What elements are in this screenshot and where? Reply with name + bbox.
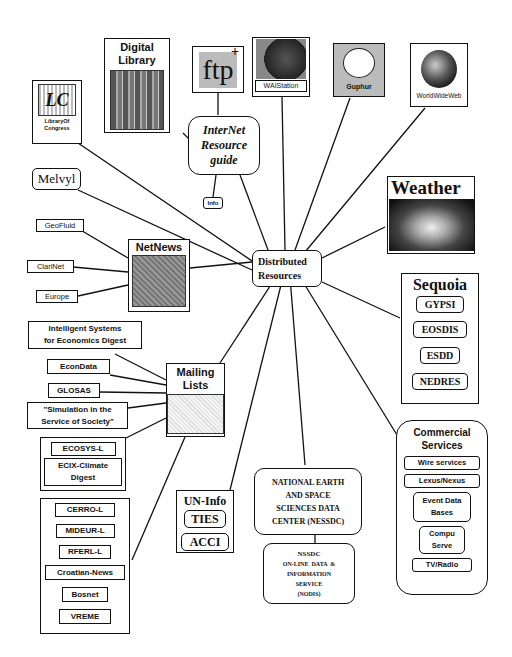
mailing-item-croatian-news[interactable]: Croatian-News (45, 565, 125, 580)
mailing-item-ecosys-l[interactable]: ECOSYS-L (51, 442, 116, 456)
guide-line-2: Resource (201, 138, 247, 153)
mailing-lists-title-2: Lists (177, 379, 215, 392)
gopher-node[interactable]: Guphur (333, 43, 385, 97)
netnews-child-clarinet[interactable]: ClariNet (27, 260, 74, 273)
mailing-item-rferl-l[interactable]: RFERL-L (59, 545, 111, 559)
ftp-icon: ftp + (199, 52, 237, 88)
hub-line-2: Resources (258, 269, 301, 283)
waistation-node[interactable]: WAIStation (252, 37, 310, 97)
netnews-child-europe[interactable]: Europe (36, 290, 78, 303)
netnews-node[interactable]: NetNews (128, 239, 190, 312)
guide-line-1: InterNet (203, 123, 245, 138)
weather-node[interactable]: Weather (387, 176, 475, 254)
mailing-item-vreme[interactable]: VREME (59, 609, 111, 624)
sequoia-item-eosdis[interactable]: EOSDIS (413, 321, 467, 338)
hurricane-satellite-icon (389, 199, 474, 251)
un-info-title: UN-Info (184, 493, 227, 509)
mailing-item-ecix-climate-digest[interactable]: ECIX-Climate Digest (44, 458, 122, 486)
library-of-congress-label-1: LibraryOf (44, 118, 69, 125)
mailing-item-bosnet[interactable]: Bosnet (62, 587, 108, 602)
mailing-group-balkan: CERRO-L MIDEUR-L RFERL-L Croatian-News B… (40, 498, 130, 634)
distributed-resources-hub[interactable]: Distributed Resources (252, 250, 322, 287)
globe-icon (421, 50, 457, 88)
books-icon (110, 70, 164, 130)
envelope-icon (167, 394, 224, 434)
guide-line-3: guide (210, 153, 237, 168)
library-of-congress-label-2: Congress (44, 125, 69, 132)
digital-library-title-1: Digital (118, 41, 155, 54)
netnews-title: NetNews (136, 240, 182, 255)
mailing-child-econdata[interactable]: EconData (47, 359, 110, 374)
melvyl-node[interactable]: Melvyl (32, 168, 81, 190)
gopher-label: Guphur (346, 83, 371, 90)
sequoia-node[interactable]: Sequoia GYPSI EOSDIS ESDD NEDRES (401, 273, 479, 404)
library-of-congress-logo-icon: LC (38, 84, 76, 116)
netnews-child-geofluid[interactable]: GeoFluid (36, 219, 84, 232)
internet-resource-guide-node[interactable]: InterNet Resource guide (188, 116, 260, 175)
mailing-lists-title-1: Mailing (177, 366, 215, 379)
un-info-node[interactable]: UN-Info TIES ACCI (176, 490, 234, 553)
nodis-node[interactable]: NSSDC ON-LINE DATA & INFORMATION SERVICE… (263, 543, 355, 604)
mailing-lists-node[interactable]: Mailing Lists (166, 363, 225, 437)
mailing-child-simulation-service-society[interactable]: "Simulation in the Service of Society" (27, 402, 128, 429)
commercial-title-1: Commercial (413, 426, 470, 439)
mailing-child-intelligent-systems[interactable]: Intelligent Systems for Economics Digest (28, 321, 142, 349)
worldwideweb-label: WorldWideWeb (417, 92, 462, 99)
un-info-item-ties[interactable]: TIES (184, 510, 226, 528)
digital-library-title-2: Library (118, 54, 155, 67)
mailing-group-ecosys: ECOSYS-L ECIX-Climate Digest (40, 437, 126, 491)
mailing-item-mideur-l[interactable]: MIDEUR-L (56, 524, 115, 538)
commercial-item-wire-services[interactable]: Wire services (404, 456, 480, 470)
mailing-item-cerro-l[interactable]: CERRO-L (55, 503, 115, 517)
sequoia-item-esdd[interactable]: ESDD (420, 347, 460, 364)
commercial-item-event-data-bases[interactable]: Event Data Bases (413, 492, 471, 522)
commercial-title-2: Services (413, 439, 470, 452)
weather-title: Weather (388, 177, 461, 199)
commercial-item-tv-radio[interactable]: TV/Radio (412, 558, 472, 572)
commercial-item-compuserve[interactable]: Compu Serve (419, 526, 465, 554)
hub-line-1: Distributed (258, 255, 307, 269)
commercial-services-node[interactable]: Commercial Services Wire services Lexus/… (396, 420, 488, 595)
un-info-item-acci[interactable]: ACCI (181, 533, 229, 551)
sequoia-item-nedres[interactable]: NEDRES (412, 373, 468, 390)
library-of-congress-node[interactable]: LC LibraryOf Congress (32, 80, 82, 144)
commercial-item-lexus-nexus[interactable]: Lexus/Nexus (404, 474, 480, 488)
globe-icon (256, 39, 306, 79)
mailing-child-glosas[interactable]: GLOSAS (48, 383, 100, 398)
digital-library-node[interactable]: Digital Library (104, 38, 170, 133)
nessdc-node[interactable]: NATIONAL EARTH AND SPACE SCIENCES DATA C… (254, 468, 362, 535)
newspaper-icon (132, 255, 186, 307)
worldwideweb-node[interactable]: WorldWideWeb (410, 43, 468, 107)
sequoia-item-gypsi[interactable]: GYPSI (416, 296, 464, 313)
waistation-label: WAIStation (255, 80, 307, 92)
ftp-node[interactable]: ftp + (192, 46, 244, 93)
info-button[interactable]: Info (203, 197, 223, 209)
gopher-mascot-icon (343, 48, 375, 78)
sequoia-title: Sequoia (413, 275, 467, 295)
